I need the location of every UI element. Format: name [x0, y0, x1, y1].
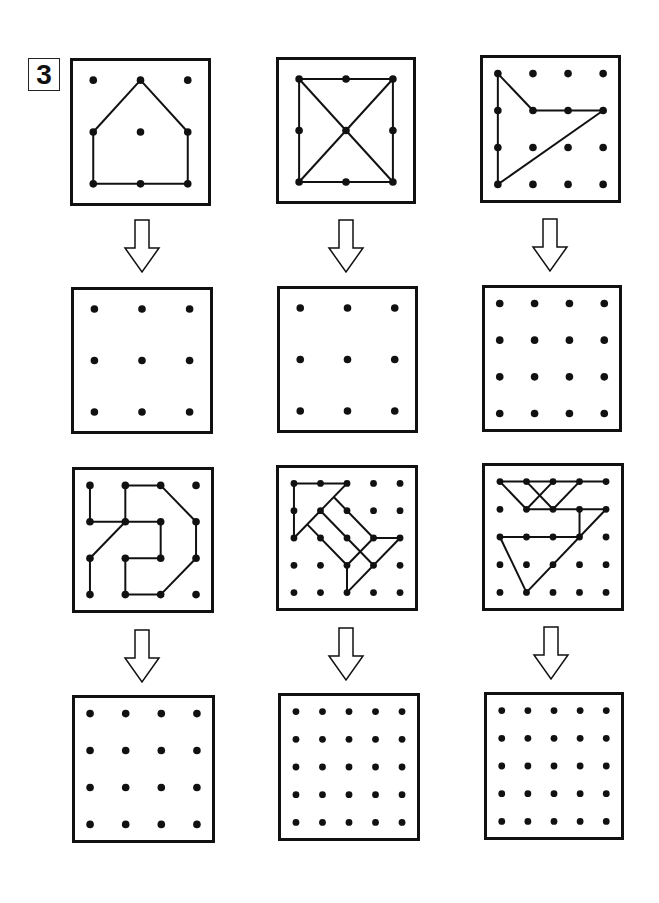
- peg-dot: [498, 735, 505, 742]
- peg-dot: [158, 747, 166, 755]
- peg-dot: [293, 764, 300, 771]
- peg-dot: [137, 76, 145, 84]
- peg-dot: [89, 76, 97, 84]
- peg-dot: [600, 300, 608, 308]
- peg-dot: [603, 818, 610, 825]
- peg-dot: [564, 107, 572, 115]
- peg-dot: [291, 562, 298, 569]
- peg-dot: [157, 554, 165, 562]
- peg-dot: [317, 535, 324, 542]
- peg-dot: [577, 735, 584, 742]
- peg-dot: [399, 819, 406, 826]
- geoboard-panel-target-5[interactable]: [278, 693, 420, 841]
- peg-dot: [319, 708, 326, 715]
- peg-dot: [192, 518, 200, 526]
- peg-dot: [523, 589, 530, 596]
- geoboard-panel-target-2[interactable]: [277, 286, 418, 433]
- peg-dot: [138, 357, 146, 365]
- down-arrow-icon: [530, 217, 570, 273]
- peg-dot: [91, 357, 99, 365]
- peg-dot: [397, 589, 404, 596]
- rubber-band-line: [526, 509, 606, 592]
- peg-dot: [370, 480, 377, 487]
- rubber-band-line: [500, 482, 527, 510]
- peg-dot: [524, 735, 531, 742]
- peg-dot: [603, 790, 610, 797]
- peg-dot: [551, 735, 558, 742]
- peg-dot: [603, 763, 610, 770]
- peg-dot: [576, 589, 583, 596]
- down-arrow-icon: [122, 628, 162, 684]
- rubber-band-line: [498, 74, 533, 111]
- peg-dot: [497, 561, 504, 568]
- peg-dot: [122, 821, 130, 829]
- peg-dot: [291, 589, 298, 596]
- peg-dot: [137, 128, 145, 136]
- peg-dot: [346, 736, 353, 743]
- peg-dot: [193, 747, 201, 755]
- peg-dot: [86, 554, 94, 562]
- peg-dot: [576, 478, 583, 485]
- peg-dot: [529, 181, 537, 189]
- peg-dot: [551, 707, 558, 714]
- geoboard-panel-source-6: [482, 463, 624, 611]
- peg-dot: [122, 518, 130, 526]
- peg-dot: [317, 562, 324, 569]
- rubber-band-line: [553, 482, 580, 510]
- peg-dot: [346, 708, 353, 715]
- peg-dot: [317, 480, 324, 487]
- peg-dot: [122, 747, 130, 755]
- peg-dot: [564, 70, 572, 78]
- peg-dot: [551, 763, 558, 770]
- peg-dot: [372, 791, 379, 798]
- peg-dot: [317, 589, 324, 596]
- peg-dot: [291, 535, 298, 542]
- peg-dot: [186, 357, 194, 365]
- peg-dot: [399, 764, 406, 771]
- geoboard-panel-target-1[interactable]: [71, 287, 213, 434]
- geoboard-panel-source-3: [480, 55, 621, 203]
- peg-dot: [524, 763, 531, 770]
- peg-dot: [531, 300, 539, 308]
- peg-dot: [372, 764, 379, 771]
- peg-dot: [157, 591, 165, 599]
- peg-dot: [319, 791, 326, 798]
- peg-dot: [157, 518, 165, 526]
- peg-dot: [600, 336, 608, 344]
- peg-dot: [295, 178, 303, 186]
- peg-dot: [494, 144, 502, 152]
- peg-dot: [497, 534, 504, 541]
- peg-dot: [122, 784, 130, 792]
- peg-dot: [346, 819, 353, 826]
- peg-dot: [564, 181, 572, 189]
- peg-dot: [342, 75, 350, 83]
- peg-dot: [391, 407, 399, 415]
- peg-dot: [346, 764, 353, 771]
- peg-dot: [293, 819, 300, 826]
- peg-dot: [577, 818, 584, 825]
- peg-dot: [397, 480, 404, 487]
- peg-dot: [600, 373, 608, 381]
- peg-dot: [603, 735, 610, 742]
- peg-dot: [603, 707, 610, 714]
- peg-dot: [158, 821, 166, 829]
- peg-dot: [372, 708, 379, 715]
- peg-dot: [566, 373, 574, 381]
- peg-dot: [397, 507, 404, 514]
- geoboard-panel-source-1: [70, 58, 211, 206]
- peg-dot: [399, 791, 406, 798]
- peg-dot: [193, 784, 201, 792]
- rubber-band-line: [93, 80, 140, 132]
- peg-dot: [497, 478, 504, 485]
- peg-dot: [296, 356, 304, 364]
- peg-dot: [317, 507, 324, 514]
- geoboard-panel-target-3[interactable]: [482, 285, 622, 432]
- geoboard-panel-target-6[interactable]: [484, 692, 624, 840]
- peg-dot: [576, 506, 583, 513]
- geoboard-panel-target-4[interactable]: [72, 695, 215, 843]
- peg-dot: [566, 410, 574, 418]
- peg-dot: [531, 410, 539, 418]
- peg-dot: [370, 589, 377, 596]
- peg-dot: [389, 127, 397, 135]
- peg-dot: [603, 561, 610, 568]
